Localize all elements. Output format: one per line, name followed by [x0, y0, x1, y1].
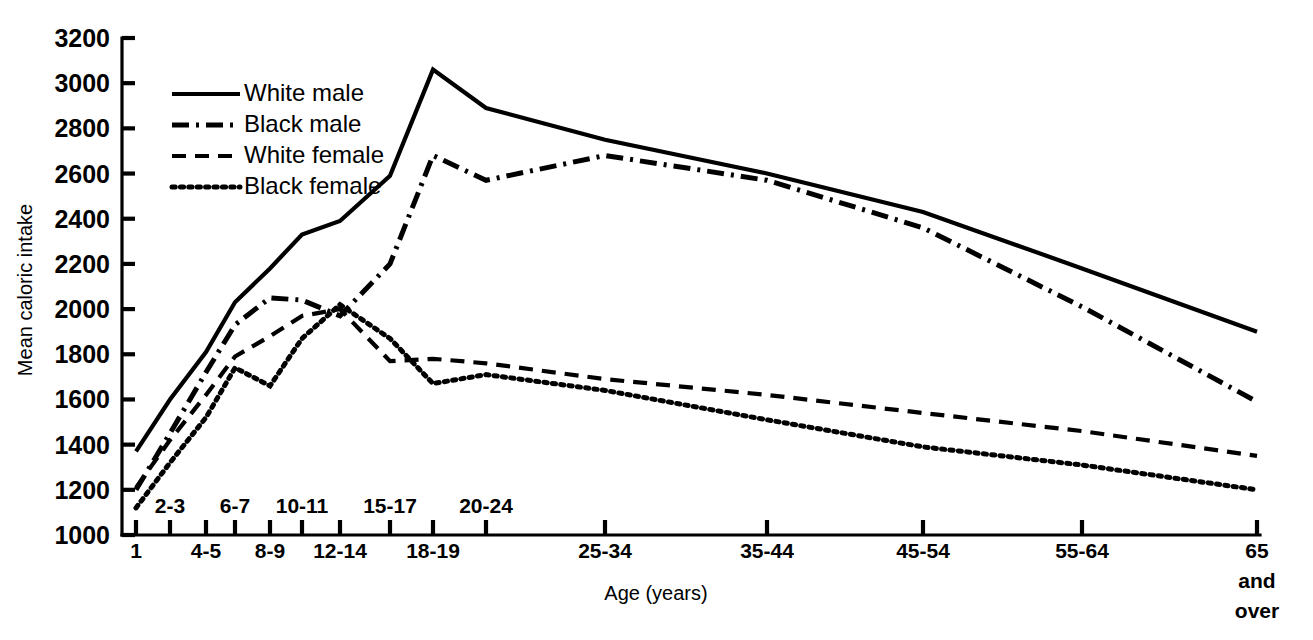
y-axis-tick-labels: 1000120014001600180020002200240026002800… — [54, 24, 110, 549]
x-tick-label: 65 — [1245, 539, 1269, 562]
legend-label: White female — [244, 141, 384, 168]
x-tick-label: 6-7 — [220, 494, 250, 517]
y-tick-label: 2200 — [54, 250, 110, 278]
y-tick-label: 1200 — [54, 476, 110, 504]
x-tick-label: 25-34 — [578, 539, 632, 562]
x-tick-label: 20-24 — [459, 494, 513, 517]
x-axis-ticks — [136, 520, 1257, 535]
series-line-black-male — [136, 156, 1257, 490]
legend-label: White male — [244, 79, 364, 106]
y-tick-label: 1000 — [54, 521, 110, 549]
x-tick-label: 4-5 — [191, 539, 222, 562]
legend-label: Black female — [244, 172, 381, 199]
x-tick-label: 35-44 — [740, 539, 794, 562]
y-tick-label: 2600 — [54, 160, 110, 188]
x-tick-label: 2-3 — [155, 494, 185, 517]
x-tick-label-extra: over — [1235, 599, 1279, 622]
y-tick-label: 1400 — [54, 431, 110, 459]
x-tick-label: 55-64 — [1055, 539, 1109, 562]
y-tick-label: 1800 — [54, 340, 110, 368]
caloric-intake-line-chart: 1000120014001600180020002200240026002800… — [0, 0, 1313, 640]
legend-label: Black male — [244, 110, 361, 137]
y-axis-ticks — [122, 38, 135, 535]
x-tick-label: 10-11 — [276, 494, 329, 517]
y-axis-title: Mean caloric intake — [14, 204, 36, 376]
y-tick-label: 2400 — [54, 205, 110, 233]
x-tick-label: 8-9 — [255, 539, 285, 562]
y-tick-label: 3200 — [54, 24, 110, 52]
x-tick-label: 1 — [130, 539, 142, 562]
x-tick-label: 15-17 — [363, 494, 417, 517]
chart-legend: White maleBlack maleWhite femaleBlack fe… — [172, 79, 384, 199]
series-line-black-female — [136, 305, 1257, 508]
y-tick-label: 2000 — [54, 295, 110, 323]
x-tick-label: 45-54 — [896, 539, 950, 562]
x-tick-label: 12-14 — [313, 539, 367, 562]
y-tick-label: 3000 — [54, 69, 110, 97]
x-tick-label: 18-19 — [406, 539, 460, 562]
x-tick-label-extra: and — [1238, 569, 1275, 592]
chart-canvas: 1000120014001600180020002200240026002800… — [0, 0, 1313, 640]
x-axis-title: Age (years) — [604, 582, 707, 604]
y-tick-label: 2800 — [54, 114, 110, 142]
y-tick-label: 1600 — [54, 385, 110, 413]
